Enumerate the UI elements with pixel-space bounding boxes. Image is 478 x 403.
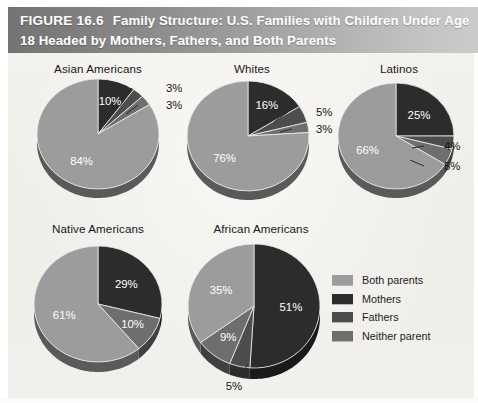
slice-value-label: 10% [121, 318, 144, 330]
pie-svg: 16%76%5%3% [168, 62, 336, 202]
slice-value-label: 29% [115, 278, 138, 290]
legend-item-mothers: Mothers [332, 290, 472, 309]
pie-chart-african-americans: African Americans51%9%35%5% [172, 222, 350, 400]
legend-swatch [332, 275, 353, 285]
figure-title-bar: FIGURE 16.6Family Structure: U.S. Famili… [8, 7, 478, 53]
pie-svg: 29%10%61% [14, 222, 182, 387]
slice-value-label: 84% [70, 155, 93, 167]
legend-swatch [332, 331, 353, 341]
slice-value-label: 61% [53, 309, 76, 321]
legend-swatch [332, 312, 353, 322]
legend-item-both-parents: Both parents [332, 271, 472, 290]
legend-label: Both parents [362, 274, 423, 286]
slice-value-label: 16% [255, 99, 278, 111]
slice-value-label: 35% [210, 284, 233, 296]
slice-value-label: 76% [213, 152, 236, 164]
legend-label: Neither parent [362, 330, 430, 342]
pie-chart-whites: Whites16%76%5%3% [168, 62, 336, 202]
slice-value-label: 4% [444, 140, 460, 152]
slice-value-label: 9% [220, 331, 236, 343]
slice-value-label: 10% [99, 95, 122, 107]
pie-chart-latinos: Latinos25%66%4%5% [320, 62, 478, 202]
page-edge-top [0, 0, 478, 7]
pie-svg: 10%84%3%3% [14, 62, 182, 202]
legend-item-neither-parent: Neither parent [332, 327, 472, 346]
legend-item-fathers: Fathers [332, 308, 472, 327]
slice-value-label: 51% [280, 301, 303, 313]
legend-label: Mothers [362, 293, 401, 305]
slice-value-label: 66% [356, 144, 379, 156]
slice-value-label: 5% [226, 380, 242, 392]
pie-svg: 51%9%35%5% [172, 222, 350, 400]
figure-container: FIGURE 16.6Family Structure: U.S. Famili… [0, 0, 478, 403]
legend-label: Fathers [362, 311, 399, 323]
legend-swatch [332, 294, 353, 304]
page-edge-left [0, 0, 8, 403]
slice-value-label: 5% [444, 160, 460, 172]
figure-title: FIGURE 16.6Family Structure: U.S. Famili… [20, 11, 470, 50]
pie-chart-native-americans: Native Americans29%10%61% [14, 222, 182, 387]
pie-svg: 25%66%4%5% [320, 62, 478, 202]
figure-number: FIGURE 16.6 [20, 13, 113, 28]
pie-chart-asian-americans: Asian Americans10%84%3%3% [14, 62, 182, 202]
slice-value-label: 25% [408, 109, 431, 121]
legend: Both parentsMothersFathersNeither parent [332, 271, 472, 345]
